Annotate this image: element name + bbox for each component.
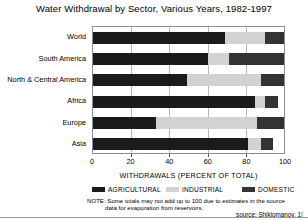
legend: AGRICULTURALINDUSTRIALDOMESTIC (92, 186, 292, 195)
x-axis-title: WITHDRAWALS (PERCENT OF TOTAL) (92, 171, 285, 180)
legend-item-agricultural[interactable]: AGRICULTURAL (92, 186, 161, 193)
chart-title: Water Withdrawal by Sector, Various Year… (0, 3, 308, 14)
bar-segment-agricultural (93, 96, 255, 108)
bar-row (93, 74, 284, 86)
category-label: World (67, 32, 86, 41)
bar-segment-domestic (265, 32, 284, 44)
bottom-divider (0, 217, 308, 218)
bar-segment-domestic (229, 53, 284, 65)
bar-segment-domestic (257, 117, 284, 129)
legend-swatch-agricultural (92, 187, 105, 192)
x-tick-label: 20 (127, 157, 135, 166)
bar-segment-domestic (261, 74, 284, 86)
bar-segment-industrial (255, 96, 265, 108)
x-tick-label: 80 (242, 157, 250, 166)
x-tick-label: 60 (204, 157, 212, 166)
chart-note: NOTE: Some totals may not add up to 100 … (87, 197, 287, 211)
bar-segment-industrial (225, 32, 265, 44)
category-label: Asia (72, 139, 86, 148)
legend-swatch-industrial (166, 187, 179, 192)
legend-item-industrial[interactable]: INDUSTRIAL (166, 186, 223, 193)
x-tick-label: 0 (90, 157, 94, 166)
bar-row (93, 117, 284, 129)
bar-segment-industrial (248, 138, 261, 150)
bar-segment-industrial (208, 53, 229, 65)
category-label: Africa (67, 96, 86, 105)
category-axis-labels: WorldSouth AmericaNorth & Central Americ… (0, 26, 89, 154)
legend-swatch-domestic (242, 187, 255, 192)
legend-item-domestic[interactable]: DOMESTIC (242, 186, 294, 193)
bar-row (93, 96, 284, 108)
bar-segment-agricultural (93, 138, 248, 150)
x-tick-label: 40 (165, 157, 173, 166)
bar-segment-agricultural (93, 32, 225, 44)
legend-label: AGRICULTURAL (108, 186, 161, 193)
chart-container: Water Withdrawal by Sector, Various Year… (0, 0, 308, 220)
bar-segment-industrial (187, 74, 261, 86)
x-tick-label: 100 (279, 157, 291, 166)
bar-row (93, 53, 284, 65)
bar-segment-agricultural (93, 117, 156, 129)
bar-segment-agricultural (93, 53, 208, 65)
chart-note-line1: NOTE: Some totals may not add up to 100 … (87, 197, 285, 204)
legend-label: INDUSTRIAL (182, 186, 223, 193)
bar-row (93, 32, 284, 44)
bar-row (93, 138, 284, 150)
bar-segment-domestic (261, 138, 272, 150)
plot-area (92, 26, 285, 154)
category-label: North & Central America (7, 75, 86, 84)
category-label: South America (39, 54, 86, 63)
category-label: Europe (62, 118, 86, 127)
bar-rows (93, 27, 284, 153)
bar-segment-agricultural (93, 74, 187, 86)
bar-segment-domestic (265, 96, 278, 108)
bar-segment-industrial (156, 117, 257, 129)
x-axis-ticks: 020406080100 (92, 154, 285, 164)
legend-label: DOMESTIC (258, 186, 294, 193)
